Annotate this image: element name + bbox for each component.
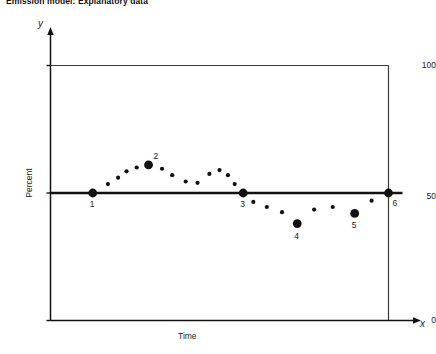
labeled-data-point-4 (293, 219, 302, 228)
point-number-label-2: 2 (154, 151, 159, 161)
labeled-data-point-2 (144, 161, 153, 170)
labeled-data-point-6 (384, 189, 393, 198)
small-data-point (170, 173, 174, 177)
small-data-point (116, 176, 120, 180)
small-data-point (331, 205, 335, 209)
small-data-point (312, 207, 316, 211)
labeled-data-point-5 (350, 209, 359, 218)
small-data-point (265, 205, 269, 209)
point-number-label-3: 3 (240, 199, 245, 209)
point-number-label-6: 6 (393, 198, 398, 208)
small-data-point (233, 182, 237, 186)
point-number-label-1: 1 (90, 199, 95, 209)
small-data-point (160, 167, 164, 171)
small-data-point (106, 182, 110, 186)
point-number-label-5: 5 (352, 220, 357, 230)
small-data-point (280, 210, 284, 214)
small-data-point (124, 169, 128, 173)
point-number-label-4: 4 (294, 231, 299, 241)
small-data-point (207, 172, 211, 176)
small-data-point (226, 173, 230, 177)
labeled-data-points (88, 161, 393, 228)
small-data-point (251, 200, 255, 204)
small-data-point (184, 179, 188, 183)
y-axis-arrowhead (47, 27, 53, 35)
small-data-point (195, 181, 199, 185)
plot-area (0, 0, 436, 354)
plot-axes (47, 27, 422, 324)
small-data-point (135, 165, 139, 169)
chart-figure: Emission model: Explanatory data y x Per… (0, 0, 436, 354)
small-data-point (370, 199, 374, 203)
small-data-point (217, 168, 221, 172)
labeled-data-point-1 (88, 189, 97, 198)
x-axis-arrowhead (413, 317, 421, 323)
labeled-data-point-3 (239, 189, 248, 198)
